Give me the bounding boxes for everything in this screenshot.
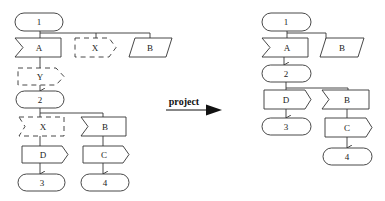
project-arrow: project: [166, 96, 222, 116]
r-node-b-mid-receive: B: [322, 90, 369, 109]
left-graph: 1 A X B Y 2 X: [15, 13, 172, 191]
r-node-4-terminal: 4: [323, 148, 372, 165]
node-label: B: [147, 43, 153, 53]
r-node-a-receive: A: [262, 38, 308, 57]
r-node-c-send: C: [325, 118, 372, 137]
node-label: 3: [40, 178, 45, 188]
node-label: B: [344, 95, 350, 105]
node-label: A: [36, 43, 43, 53]
edge-2-b: [40, 113, 103, 117]
node-b-top-parallelogram: B: [129, 38, 172, 57]
node-c-send: C: [83, 146, 129, 163]
node-b-mid-receive: B: [81, 117, 126, 136]
node-label: B: [102, 122, 108, 132]
node-label: C: [344, 123, 350, 133]
node-y-dashed: Y: [18, 68, 64, 85]
node-x-mid-dashed: X: [19, 117, 64, 136]
node-label: A: [284, 43, 291, 53]
node-label: B: [339, 43, 345, 53]
node-label: 2: [38, 95, 43, 105]
node-1-terminal: 1: [15, 13, 63, 31]
arrowhead-icon: [206, 105, 222, 116]
node-4-terminal: 4: [81, 174, 129, 191]
r-node-1-terminal: 1: [262, 13, 311, 31]
r-node-d-send: D: [264, 90, 311, 109]
node-3-terminal: 3: [18, 174, 65, 191]
node-2-terminal: 2: [16, 91, 64, 108]
right-graph: 1 A B 2 D B 3 C: [262, 13, 372, 165]
node-label: X: [40, 122, 47, 132]
node-d-send: D: [22, 146, 68, 163]
node-label: 4: [345, 152, 350, 162]
diagram-canvas: 1 A X B Y 2 X: [0, 0, 385, 201]
r-node-b-top-parallelogram: B: [320, 38, 364, 57]
node-label: D: [283, 95, 290, 105]
node-label: Y: [37, 72, 44, 82]
node-label: 1: [37, 17, 42, 27]
node-label: 1: [284, 17, 289, 27]
node-label: X: [92, 43, 99, 53]
node-label: C: [101, 150, 107, 160]
project-label: project: [169, 96, 200, 107]
r-node-2-terminal: 2: [262, 65, 311, 82]
node-label: 4: [103, 178, 108, 188]
node-label: 2: [284, 69, 289, 79]
node-a-receive: A: [15, 38, 61, 57]
node-label: 3: [284, 122, 289, 132]
node-label: D: [40, 150, 47, 160]
node-x-top-dashed: X: [75, 38, 116, 57]
r-node-3-terminal: 3: [262, 118, 311, 135]
